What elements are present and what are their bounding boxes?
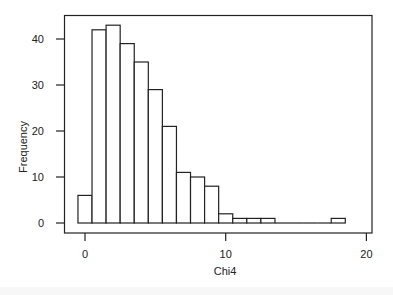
histogram-bar [219,214,233,223]
histogram-bar [78,195,92,223]
y-tick-label: 0 [38,217,44,229]
histogram-bar [331,218,345,223]
y-tick-label: 10 [32,171,44,183]
histogram-bar [120,44,134,223]
y-tick-label: 40 [32,33,44,45]
histogram-chart: 010203040 01020 Chi4 Frequency [0,0,393,295]
histogram-bar [148,90,162,223]
histogram-bar [134,62,148,223]
x-tick-label: 20 [360,248,372,260]
histogram-bar [247,218,261,223]
y-tick-label: 30 [32,79,44,91]
histogram-bar [205,186,219,223]
y-axis: 010203040 [32,33,65,229]
histogram-bar [233,218,247,223]
histogram-bar [92,30,106,223]
x-tick-label: 0 [82,248,88,260]
histogram-bar [261,218,275,223]
histogram-bar [106,25,120,223]
x-axis: 01020 [82,233,373,260]
x-axis-label: Chi4 [214,265,237,277]
x-tick-label: 10 [220,248,232,260]
histogram-bar [191,177,205,223]
y-tick-label: 20 [32,125,44,137]
y-axis-label: Frequency [17,121,29,173]
histogram-bars [78,25,345,223]
histogram-bar [162,126,176,223]
histogram-bar [176,172,190,223]
bottom-strip [0,287,393,295]
